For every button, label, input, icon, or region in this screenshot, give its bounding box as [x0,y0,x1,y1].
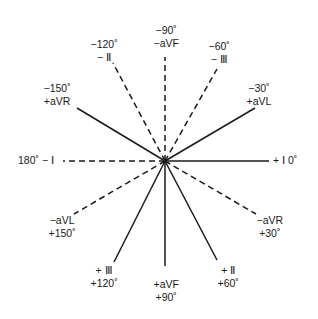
axis-label-neg120: −120˚− Ⅱ [91,38,118,64]
axis-label-line: 180˚ − Ⅰ [18,154,54,167]
axis-line-60 [165,161,217,260]
axis-label-line: +60˚ [218,277,239,290]
axis-label-line: + Ⅱ [218,264,239,277]
axis-label-line: −aVF [154,37,179,50]
axis-label-neg150: −150˚+aVR [44,82,71,108]
axis-label-line: + Ⅰ 0˚ [273,154,297,167]
axis-label-150: −aVL+150˚ [49,214,76,240]
axis-label-line: −120˚ [91,38,118,51]
axis-label-line: +aVL [247,95,272,108]
axis-label-180: 180˚ − Ⅰ [18,154,54,167]
axis-label-120: + Ⅲ+120˚ [91,264,118,290]
axis-label-line: + Ⅲ [91,264,118,277]
axis-label-60: + Ⅱ+60˚ [218,264,239,290]
axis-label-line: +aVF [154,278,179,291]
axis-label-line: −30˚ [247,82,272,95]
axis-label-0: + Ⅰ 0˚ [273,154,297,167]
axis-line-120 [114,161,165,262]
axis-label-line: −150˚ [44,82,71,95]
axis-label-line: +150˚ [49,227,76,240]
axis-label-neg30: −30˚+aVL [247,82,272,108]
axis-label-line: − Ⅱ [91,51,118,64]
axis-label-neg90: −90˚−aVF [154,24,179,50]
axis-label-line: −aVL [49,214,76,227]
axis-line-neg150 [77,108,165,161]
hexaxial-diagram: + Ⅰ 0˚−30˚+aVL−60˚− Ⅲ−90˚−aVF−120˚− Ⅱ−15… [0,0,318,319]
axis-label-line: +30˚ [257,227,284,240]
axis-label-line: +90˚ [154,291,179,304]
axis-label-30: −aVR+30˚ [257,214,284,240]
axis-label-line: − Ⅲ [209,53,230,66]
axis-label-line: +120˚ [91,277,118,290]
axis-label-90: +aVF+90˚ [154,278,179,304]
axis-label-line: −aVR [257,214,284,227]
axis-label-line: −60˚ [209,40,230,53]
axis-line-neg60 [165,69,217,161]
axis-line-neg30 [165,108,255,161]
axis-label-neg60: −60˚− Ⅲ [209,40,230,66]
axis-label-line: +aVR [44,95,71,108]
axis-line-neg120 [113,63,165,161]
center-point [163,159,167,163]
axis-label-line: −90˚ [154,24,179,37]
